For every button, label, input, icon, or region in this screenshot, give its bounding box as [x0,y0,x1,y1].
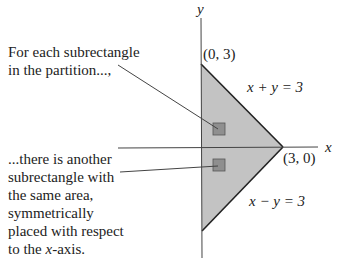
y-axis [201,18,202,258]
annotation-line: subrectangle with [8,168,124,186]
annotation-line: to the x-axis. [8,240,124,258]
annotation-line: in the partition..., [8,61,140,79]
annotation-bottom: ...there is another subrectangle with th… [8,150,124,258]
lower-subrectangle [213,159,225,171]
annotation-line: symmetrically [8,204,124,222]
point-right-label: (3, 0) [283,149,316,167]
upper-subrectangle [213,123,225,135]
annotation-line: ...there is another [8,150,124,168]
point-top-label: (0, 3) [203,45,236,63]
equation-lower: x − y = 3 [249,192,305,210]
annotation-line: For each subrectangle [8,43,140,61]
annotation-top: For each subrectangle in the partition..… [8,43,140,79]
equation-upper: x + y = 3 [247,78,303,96]
x-axis [118,147,318,148]
y-axis-label: y [197,0,204,18]
annotation-line: the same area, [8,186,124,204]
annotation-line: placed with respect [8,222,124,240]
x-axis-label: x [325,138,332,156]
